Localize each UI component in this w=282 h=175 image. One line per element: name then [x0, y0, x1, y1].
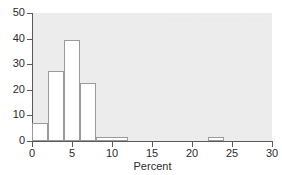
y-tick-mark — [27, 39, 32, 40]
histogram-bar — [96, 137, 128, 141]
y-tick-label: 0 — [1, 135, 25, 146]
y-tick-mark — [27, 90, 32, 91]
y-tick-label: 20 — [1, 84, 25, 95]
y-tick-label: 50 — [1, 7, 25, 18]
x-tick-label: 10 — [97, 148, 127, 159]
x-tick-label: 30 — [257, 148, 282, 159]
histogram-bar — [32, 123, 48, 141]
histogram-figure: ........ ..... .... .... 01020304050 051… — [0, 0, 282, 175]
x-tick-label: 25 — [217, 148, 247, 159]
y-tick-label: 10 — [1, 109, 25, 120]
y-tick-label: 30 — [1, 58, 25, 69]
histogram-bar — [208, 137, 224, 141]
histogram-bar — [64, 40, 80, 141]
histogram-bar — [80, 83, 96, 141]
x-axis-title: Percent — [32, 160, 273, 172]
y-tick-mark — [27, 13, 32, 14]
y-tick-label: 40 — [1, 33, 25, 44]
x-tick-label: 15 — [137, 148, 167, 159]
x-tick-label: 20 — [177, 148, 207, 159]
y-tick-mark — [27, 64, 32, 65]
histogram-bar — [48, 71, 64, 141]
x-tick-label: 5 — [57, 148, 87, 159]
y-tick-mark — [27, 115, 32, 116]
x-tick-label: 0 — [17, 148, 47, 159]
